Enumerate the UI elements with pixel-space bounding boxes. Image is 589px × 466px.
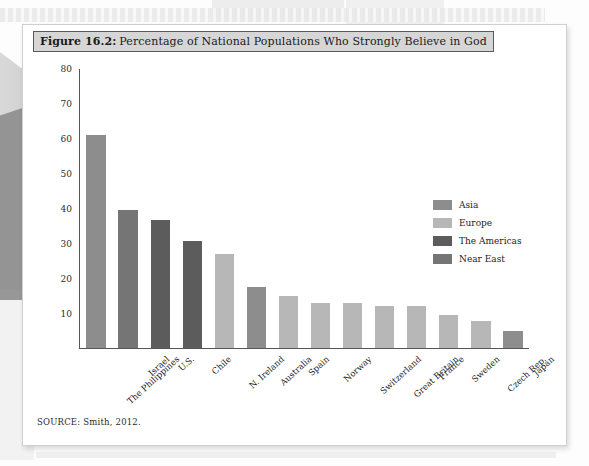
bar-czech-rep: [471, 321, 490, 348]
x-axis-label-japan: Japan: [531, 354, 556, 378]
legend-item-the-americas: The Americas: [433, 233, 553, 249]
x-axis-label-the-philippines: The Philippines: [125, 354, 181, 406]
x-axis-label-n-ireland: N. Ireland: [247, 354, 286, 391]
bar-switzerland: [343, 303, 362, 348]
bar-the-philippines: [86, 135, 105, 349]
bar-japan: [503, 331, 522, 348]
bar-chart: 1020304050607080 The PhilippinesIsraelU.…: [23, 25, 568, 447]
legend-swatch-icon: [433, 254, 452, 264]
bar-u-s: [151, 220, 170, 348]
bar-australia: [247, 287, 266, 348]
scan-artifact-top-strip: [0, 8, 545, 22]
bar-n-ireland: [215, 254, 234, 349]
legend-swatch-icon: [433, 236, 452, 246]
bar-israel: [118, 210, 137, 348]
legend-label: Near East: [459, 254, 505, 264]
y-axis-tick-60: 60: [61, 134, 79, 144]
legend-item-asia: Asia: [433, 197, 553, 213]
bar-spain: [279, 296, 298, 349]
y-axis-tick-40: 40: [61, 204, 79, 214]
legend-item-near-east: Near East: [433, 251, 553, 267]
figure-page: Figure 16.2: Percentage of National Popu…: [22, 24, 567, 446]
y-axis-tick-20: 20: [61, 274, 79, 284]
bar-great-britain: [375, 306, 394, 348]
legend-label: Europe: [459, 218, 492, 228]
y-axis-tick-70: 70: [61, 99, 79, 109]
x-axis-label-sweden: Sweden: [470, 354, 502, 384]
legend-item-europe: Europe: [433, 215, 553, 231]
y-axis-tick-80: 80: [61, 64, 79, 74]
y-axis-tick-50: 50: [61, 169, 79, 179]
chart-legend: AsiaEuropeThe AmericasNear East: [433, 197, 553, 269]
x-axis-line: [79, 348, 529, 349]
bar-france: [407, 306, 426, 348]
y-axis-tick-30: 30: [61, 239, 79, 249]
legend-swatch-icon: [433, 200, 452, 210]
bar-chile: [183, 241, 202, 348]
scan-artifact-bottom-line: [36, 452, 556, 458]
x-axis-label-u-s: U.S.: [177, 354, 197, 373]
x-axis-labels: The PhilippinesIsraelU.S.ChileN. Ireland…: [80, 350, 529, 420]
bar-sweden: [439, 315, 458, 348]
legend-swatch-icon: [433, 218, 452, 228]
bar-norway: [311, 303, 330, 348]
x-axis-label-chile: Chile: [210, 354, 233, 376]
legend-label: Asia: [459, 200, 478, 210]
y-axis-tick-10: 10: [61, 309, 79, 319]
source-note: SOURCE: Smith, 2012.: [37, 417, 141, 427]
legend-label: The Americas: [459, 236, 522, 246]
x-axis-label-norway: Norway: [341, 354, 373, 384]
